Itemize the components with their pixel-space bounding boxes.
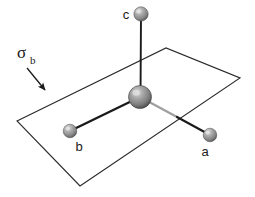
plane-label-sigma-subscript: b xyxy=(30,54,36,66)
atom-b xyxy=(63,124,77,138)
diagram-canvas: σ b c b a xyxy=(0,0,255,197)
plane-annotation-arrow-icon xyxy=(27,68,45,90)
atom-c xyxy=(134,7,148,21)
atom-label-b: b xyxy=(75,139,82,154)
atom-label-a: a xyxy=(201,144,209,159)
bond-center-to-c xyxy=(141,14,142,97)
molecular-diagram-figure: σ b c b a xyxy=(0,0,255,197)
mirror-plane-sigma-b xyxy=(17,48,240,186)
central-atom xyxy=(129,86,152,109)
plane-label-sigma-symbol: σ xyxy=(17,43,26,62)
atom-label-c: c xyxy=(123,7,130,22)
atom-a xyxy=(203,128,217,142)
